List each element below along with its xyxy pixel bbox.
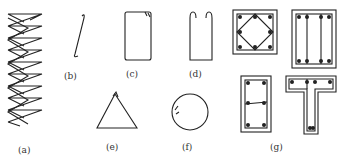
- spiral-stirrup-a: [8, 14, 42, 126]
- label-c: (c): [126, 69, 138, 79]
- circular-stirrup-f: [172, 94, 208, 130]
- label-b: (b): [64, 71, 77, 81]
- open-stirrup-d: [190, 12, 212, 60]
- label-a: (a): [18, 145, 30, 155]
- label-g: (g): [270, 142, 283, 152]
- label-e: (e): [106, 142, 118, 152]
- closed-stirrup-c: [125, 12, 151, 60]
- label-d: (d): [189, 69, 202, 79]
- triangle-stirrup-e: [97, 92, 137, 128]
- label-f: (f): [182, 142, 192, 152]
- stirrup-diagram: [0, 0, 337, 158]
- compound-stirrups-g: [233, 10, 336, 134]
- single-tie-b: [74, 15, 84, 57]
